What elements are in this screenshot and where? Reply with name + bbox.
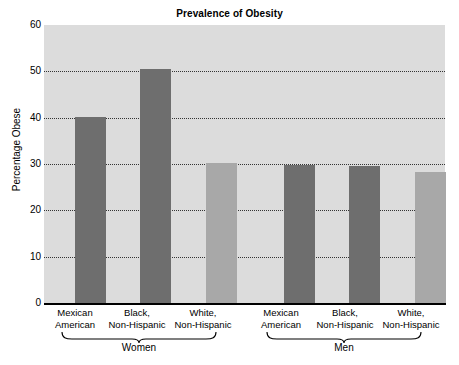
x-tick-label-4-line1: Black, <box>307 307 383 319</box>
y-tick-label-0: 0 <box>3 298 41 308</box>
y-tick-label-40: 40 <box>3 113 41 123</box>
x-tick-label-1-line2: Non-Hispanic <box>99 319 175 331</box>
bar-women-white-non-hispanic <box>206 163 237 303</box>
plot-area <box>44 25 445 303</box>
x-tick-label-5-line1: White, <box>373 307 449 319</box>
y-tick-label-30: 30 <box>3 159 41 169</box>
y-tick-label-10: 10 <box>3 252 41 262</box>
group-label-women: Women <box>60 342 218 353</box>
x-tick-label-1: Black, Non-Hispanic <box>99 307 175 330</box>
x-axis-line <box>44 303 446 305</box>
y-axis-tick-group: 60 50 40 30 20 10 0 <box>0 0 41 365</box>
bar-men-mexican-american <box>284 165 315 303</box>
chart-figure: Prevalence of Obesity Percentage Obese 6… <box>0 0 459 365</box>
x-tick-label-2-line1: White, <box>165 307 241 319</box>
bar-men-white-non-hispanic <box>415 172 446 303</box>
x-tick-label-4-line2: Non-Hispanic <box>307 319 383 331</box>
x-tick-label-4: Black, Non-Hispanic <box>307 307 383 330</box>
bar-men-black-non-hispanic <box>349 166 380 303</box>
x-tick-label-2-line2: Non-Hispanic <box>165 319 241 331</box>
y-tick-label-60: 60 <box>3 20 41 30</box>
group-label-men: Men <box>265 342 423 353</box>
y-tick-label-50: 50 <box>3 66 41 76</box>
x-tick-label-2: White, Non-Hispanic <box>165 307 241 330</box>
gridline-50 <box>44 71 445 72</box>
chart-title: Prevalence of Obesity <box>0 8 459 19</box>
y-tick-label-20: 20 <box>3 205 41 215</box>
x-tick-label-5: White, Non-Hispanic <box>373 307 449 330</box>
x-tick-label-5-line2: Non-Hispanic <box>373 319 449 331</box>
bar-women-black-non-hispanic <box>140 69 171 303</box>
x-tick-label-1-line1: Black, <box>99 307 175 319</box>
bar-women-mexican-american <box>75 117 106 303</box>
